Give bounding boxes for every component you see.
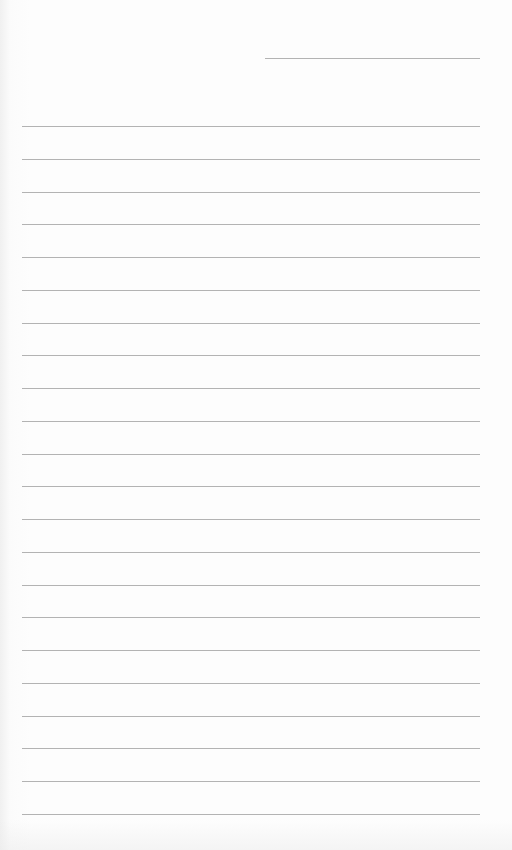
ruled-line	[22, 323, 480, 324]
ruled-line	[22, 683, 480, 684]
ruled-line	[22, 290, 480, 291]
ruled-line	[22, 781, 480, 782]
ruled-line	[22, 192, 480, 193]
ruled-line	[22, 421, 480, 422]
ruled-line	[22, 650, 480, 651]
ruled-line	[22, 748, 480, 749]
ruled-line	[22, 552, 480, 553]
header-date-line	[265, 58, 480, 59]
ruled-line	[22, 126, 480, 127]
ruled-line	[22, 355, 480, 356]
ruled-line	[22, 814, 480, 815]
ruled-line	[22, 519, 480, 520]
notebook-page	[0, 0, 512, 850]
page-bottom-shadow	[0, 820, 512, 850]
ruled-line	[22, 388, 480, 389]
ruled-line	[22, 257, 480, 258]
ruled-line	[22, 617, 480, 618]
ruled-line	[22, 224, 480, 225]
ruled-line	[22, 486, 480, 487]
ruled-line	[22, 585, 480, 586]
ruled-line	[22, 454, 480, 455]
ruled-line	[22, 716, 480, 717]
ruled-line	[22, 159, 480, 160]
